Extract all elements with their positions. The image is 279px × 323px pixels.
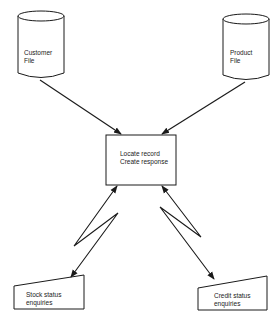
lightning-process-stock	[71, 186, 118, 277]
stock-enquiries-label: Stock status enquiries	[26, 291, 61, 307]
credit-enquiries-line2: enquiries	[214, 300, 251, 308]
product-file-line1: Product	[230, 49, 252, 57]
lightning-process-credit	[160, 186, 214, 279]
product-file-label: Product File	[230, 49, 252, 65]
process-line2: Create response	[120, 158, 168, 166]
product-file-cylinder	[223, 14, 269, 80]
customer-file-line2: File	[24, 57, 52, 65]
customer-file-cylinder	[18, 11, 64, 78]
process-label: Locate record Create response	[120, 150, 168, 166]
product-file-line2: File	[230, 57, 252, 65]
process-line1: Locate record	[120, 150, 168, 158]
customer-file-label: Customer File	[24, 49, 52, 65]
credit-enquiries-line1: Credit status	[214, 292, 251, 300]
credit-enquiries-label: Credit status enquiries	[214, 292, 251, 308]
arrow-product-to-process	[162, 82, 245, 134]
arrow-customer-to-process	[40, 80, 121, 134]
customer-file-line1: Customer	[24, 49, 52, 57]
stock-enquiries-line2: enquiries	[26, 299, 61, 307]
stock-enquiries-line1: Stock status	[26, 291, 61, 299]
